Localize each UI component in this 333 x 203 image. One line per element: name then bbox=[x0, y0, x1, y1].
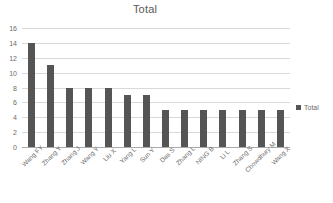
x-axis-slot: Sun Y bbox=[137, 149, 156, 201]
y-axis-tick-label: 0 bbox=[13, 144, 17, 151]
x-axis-slot: Zhang J bbox=[60, 149, 79, 201]
x-axis-slot: NING B bbox=[194, 149, 213, 201]
bar[interactable] bbox=[162, 110, 169, 147]
y-axis-tick-label: 12 bbox=[9, 54, 17, 61]
bar-slot bbox=[233, 28, 252, 147]
y-axis-tick-label: 6 bbox=[13, 99, 17, 106]
bar-slot bbox=[271, 28, 290, 147]
bar[interactable] bbox=[181, 110, 188, 147]
y-axis-tick-label: 8 bbox=[13, 84, 17, 91]
bar[interactable] bbox=[219, 110, 226, 147]
bar[interactable] bbox=[47, 65, 54, 147]
x-axis-tick-label: Wang Y bbox=[79, 145, 100, 166]
bar-slot bbox=[22, 28, 41, 147]
x-axis-slot: Yang L bbox=[118, 149, 137, 201]
y-axis-tick-label: 16 bbox=[9, 25, 17, 32]
bar-slot bbox=[41, 28, 60, 147]
x-axis-tick-label: Li L bbox=[218, 148, 230, 160]
x-axis: Wang FYZhang YZhang JWang YLiu XYang LSu… bbox=[22, 149, 290, 201]
bar-slot bbox=[99, 28, 118, 147]
bar[interactable] bbox=[28, 43, 35, 147]
bar-slot bbox=[194, 28, 213, 147]
bar-slot bbox=[137, 28, 156, 147]
x-axis-tick-label: Yang L bbox=[118, 146, 137, 165]
x-axis-slot: Zhang Y bbox=[41, 149, 60, 201]
bar-slot bbox=[252, 28, 271, 147]
y-axis-tick-label: 2 bbox=[13, 129, 17, 136]
x-axis-slot: Liu X bbox=[99, 149, 118, 201]
x-axis-slot: Wang FY bbox=[22, 149, 41, 201]
bar[interactable] bbox=[66, 88, 73, 148]
bar[interactable] bbox=[258, 110, 265, 147]
bar[interactable] bbox=[143, 95, 150, 147]
bar-slot bbox=[175, 28, 194, 147]
bar[interactable] bbox=[124, 95, 131, 147]
bar[interactable] bbox=[105, 88, 112, 148]
chart-title: Total bbox=[0, 3, 290, 15]
bar-slot bbox=[79, 28, 98, 147]
bar-slot bbox=[118, 28, 137, 147]
bar-slot bbox=[60, 28, 79, 147]
x-axis-slot: Wang X bbox=[271, 149, 290, 201]
bar-slot bbox=[156, 28, 175, 147]
x-axis-slot: Das S bbox=[156, 149, 175, 201]
bar[interactable] bbox=[85, 88, 92, 148]
bar[interactable] bbox=[239, 110, 246, 147]
y-axis-tick-label: 4 bbox=[13, 114, 17, 121]
x-axis-tick-label: Liu X bbox=[102, 147, 117, 162]
y-axis-tick-label: 14 bbox=[9, 39, 17, 46]
x-axis-tick-label: NING B bbox=[194, 145, 215, 166]
bar[interactable] bbox=[200, 110, 207, 147]
legend-label: Total bbox=[304, 104, 319, 111]
chart-legend: Total bbox=[296, 104, 319, 111]
bar[interactable] bbox=[277, 110, 284, 147]
x-axis-slot: Zhang S bbox=[233, 149, 252, 201]
x-axis-slot: Chowdhury M bbox=[252, 149, 271, 201]
y-axis: 0246810121416 bbox=[0, 28, 20, 147]
x-axis-slot: Wang Y bbox=[79, 149, 98, 201]
y-axis-tick-label: 10 bbox=[9, 69, 17, 76]
x-axis-tick-label: Das S bbox=[158, 146, 175, 163]
x-axis-tick-label: Sun Y bbox=[139, 146, 156, 163]
x-axis-slot: Li L bbox=[213, 149, 232, 201]
x-axis-tick-label: Wang X bbox=[270, 145, 291, 166]
legend-swatch-icon bbox=[296, 105, 301, 110]
bar-slot bbox=[213, 28, 232, 147]
bar-chart: Total 0246810121416 Wang FYZhang YZhang … bbox=[0, 0, 333, 203]
bars-layer bbox=[22, 28, 290, 147]
x-axis-slot: Zhang L bbox=[175, 149, 194, 201]
